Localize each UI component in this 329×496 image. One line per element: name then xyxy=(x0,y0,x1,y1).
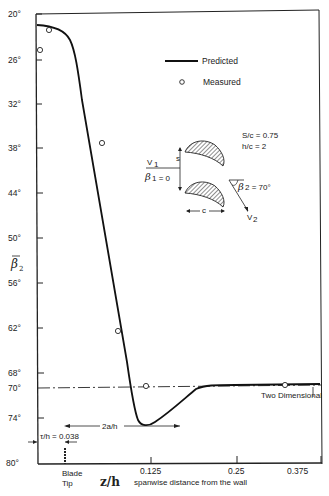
predicted-curve xyxy=(37,25,320,425)
lower-blade-icon xyxy=(185,182,224,207)
measured-point xyxy=(143,383,148,388)
two-dimensional-line: Two Dimensional xyxy=(38,385,322,400)
measured-point xyxy=(46,27,51,32)
parameters: S/c = 0.75 h/c = 2 xyxy=(242,131,279,151)
y-tick-38: 38° xyxy=(8,143,21,153)
y-tick-80: 80° xyxy=(6,458,19,468)
two-a-h-annotation: 2a/h xyxy=(64,420,180,431)
svg-text:h/c = 2: h/c = 2 xyxy=(242,142,267,151)
measured-point xyxy=(282,382,287,387)
svg-text:c: c xyxy=(202,206,206,215)
chart-figure: 20° 26° 32° 38° 44° 50° 56° 62° 68° 70° … xyxy=(0,0,329,496)
svg-text:Measured: Measured xyxy=(203,77,241,87)
y-tick-74: 74° xyxy=(8,413,21,423)
y-axis-labels: 20° 26° 32° 38° 44° 50° 56° 62° 68° 70° … xyxy=(6,9,21,468)
svg-text:β: β xyxy=(10,257,18,271)
svg-text:s: s xyxy=(176,154,180,163)
svg-text:Tip: Tip xyxy=(62,479,73,488)
svg-text:2: 2 xyxy=(19,265,23,273)
svg-text:Blade: Blade xyxy=(62,469,83,478)
measured-points xyxy=(37,27,287,388)
svg-text:V: V xyxy=(147,158,153,167)
x-tick-0125: 0.125 xyxy=(140,466,162,476)
svg-text:1: 1 xyxy=(154,160,159,169)
legend-circle-icon xyxy=(180,80,185,85)
blade-tip-marker: Blade Tip xyxy=(62,448,83,488)
legend: Predicted Measured xyxy=(165,56,241,87)
upper-blade-icon xyxy=(185,141,224,166)
svg-text:1 = 0: 1 = 0 xyxy=(152,174,171,183)
y-tick-68: 68° xyxy=(8,368,21,378)
svg-text:β: β xyxy=(144,171,151,182)
y-tick-44: 44° xyxy=(8,188,21,198)
svg-text:S/c = 0.75: S/c = 0.75 xyxy=(242,131,279,140)
svg-text:τ/h = 0.038: τ/h = 0.038 xyxy=(40,432,80,441)
y-tick-56: 56° xyxy=(8,278,21,288)
svg-text:spanwise distance from the wal: spanwise distance from the wall xyxy=(134,478,247,487)
svg-text:2: 2 xyxy=(253,215,258,224)
measured-point xyxy=(115,328,120,333)
svg-text:2a/h: 2a/h xyxy=(102,422,118,431)
y-axis-title: β 2 xyxy=(10,256,23,273)
y-tick-70: 70° xyxy=(8,383,21,393)
y-tick-20: 20° xyxy=(8,9,21,19)
svg-text:z/h: z/h xyxy=(100,475,120,489)
svg-text:β: β xyxy=(237,181,244,192)
svg-text:2 = 70°: 2 = 70° xyxy=(245,183,271,192)
y-tick-26: 26° xyxy=(8,55,21,65)
y-tick-50: 50° xyxy=(8,233,21,243)
cascade-diagram: s V 1 β 1 = 0 c β 2 = 70° V 2 xyxy=(144,141,271,224)
y-tick-32: 32° xyxy=(8,99,21,109)
x-axis-title: z/h spanwise distance from the wall xyxy=(100,475,247,489)
x-tick-0375: 0.375 xyxy=(287,466,309,476)
x-axis-labels: 0.125 0.25 0.375 xyxy=(140,466,309,476)
tau-annotation: τ/h = 0.038 xyxy=(28,432,80,444)
y-tick-62: 62° xyxy=(8,323,21,333)
svg-text:Predicted: Predicted xyxy=(202,56,238,66)
measured-point xyxy=(99,140,104,145)
measured-point xyxy=(37,47,42,52)
x-tick-025: 0.25 xyxy=(228,466,245,476)
